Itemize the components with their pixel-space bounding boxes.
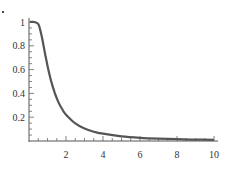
- axis-ticks: [29, 22, 214, 141]
- y-tick-label: 1: [20, 17, 25, 28]
- axes: [29, 18, 218, 142]
- x-tick-label: 2: [64, 149, 69, 160]
- line-chart: 2468100.20.40.60.81: [0, 0, 229, 169]
- y-tick-label: 0.4: [13, 88, 26, 99]
- x-tick-label: 4: [101, 149, 106, 160]
- x-tick-label: 8: [175, 149, 180, 160]
- x-tick-label: 10: [209, 149, 219, 160]
- y-tick-label: 0.6: [13, 64, 26, 75]
- y-tick-label: 0.2: [13, 112, 26, 123]
- y-tick-label: 0.8: [13, 40, 26, 51]
- x-tick-label: 6: [138, 149, 143, 160]
- data-line: [30, 22, 214, 140]
